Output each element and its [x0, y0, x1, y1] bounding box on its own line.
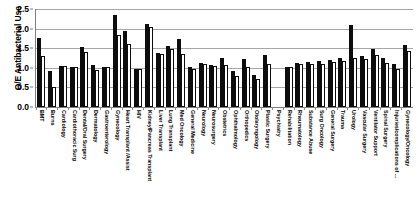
y-tick-label: 0.5: [17, 82, 29, 92]
x-label-cell: Rheumatology: [294, 110, 305, 214]
bar-group: [219, 9, 230, 107]
bar-expected: [396, 69, 400, 107]
x-tick-label: General Surgery: [329, 110, 334, 151]
x-tick-label: Gastroenterology: [103, 110, 108, 154]
bar-group: [369, 9, 380, 107]
bar-group: [380, 9, 391, 107]
x-tick-label: Substance Abuse: [307, 110, 312, 154]
y-tick-label: 2.0: [17, 24, 29, 34]
bar-group: [262, 9, 273, 107]
x-label-cell: Injuries/complications of ...: [391, 110, 402, 214]
bar-expected: [52, 87, 56, 107]
y-axis-tick-labels: 0.00.51.01.52.02.5: [0, 9, 33, 107]
x-tick-label: BMT: [39, 110, 44, 122]
bar-group: [90, 9, 101, 107]
y-tick-mark: [30, 67, 33, 68]
bar-group: [154, 9, 165, 107]
bar-group: [337, 9, 348, 107]
bar-expected: [106, 67, 110, 107]
bar-group: [122, 9, 133, 107]
x-tick-label: Rheumatology: [297, 110, 302, 147]
bar-group: [230, 9, 241, 107]
bar-group: [305, 9, 316, 107]
bar-expected: [385, 63, 389, 107]
bar-expected: [235, 76, 239, 107]
x-label-cell: Plastic Surgery: [262, 110, 273, 214]
x-label-cell: General Surgery: [326, 110, 337, 214]
x-tick-label: Obstetrics: [221, 110, 226, 136]
x-label-cell: Kidney/Pancreas Transplant: [144, 110, 155, 214]
bar-expected: [342, 61, 346, 107]
x-tick-label: Rehabilitation: [286, 110, 291, 145]
x-axis-tick-labels: BMTBurnsCardiologyCardiothoracic SurgDen…: [35, 110, 413, 214]
x-label-cell: Ophthalmology: [230, 110, 241, 214]
x-label-cell: Heart Transplant /Assist: [122, 110, 133, 214]
bar-group: [58, 9, 69, 107]
bar-expected: [213, 66, 217, 107]
x-tick-label: Surg Oncology: [318, 110, 323, 148]
x-tick-label: HIV: [135, 110, 140, 119]
x-label-cell: Gynecology/Oncology: [402, 110, 413, 214]
x-tick-label: Trauma: [340, 110, 345, 129]
bar-group: [326, 9, 337, 107]
x-label-cell: Cardiothoracic Surg: [68, 110, 79, 214]
bar-expected: [149, 27, 153, 107]
bar-expected: [321, 64, 325, 107]
x-tick-label: Kidney/Pancreas Transplant: [146, 110, 151, 181]
bar-expected: [63, 66, 67, 107]
x-tick-label: Spinal Surgery: [383, 110, 388, 147]
bar-group: [251, 9, 262, 107]
x-label-cell: Dental/Oral Surgery: [79, 110, 90, 214]
x-label-cell: Trauma: [337, 110, 348, 214]
bar-group: [47, 9, 58, 107]
bar-group: [133, 9, 144, 107]
x-label-cell: Gynecology: [111, 110, 122, 214]
bar-group: [240, 9, 251, 107]
bar-group: [165, 9, 176, 107]
bar-expected: [95, 70, 99, 107]
x-tick-label: Orthopedics: [243, 110, 248, 141]
y-tick-mark: [30, 87, 33, 88]
plot-area: [35, 9, 413, 107]
x-label-cell: Burns: [47, 110, 58, 214]
x-tick-label: Liver Transplant: [157, 110, 162, 151]
x-tick-label: Med Oncology: [178, 110, 183, 147]
bar-expected: [289, 67, 293, 107]
bar-group: [144, 9, 155, 107]
y-tick-label: 2.5: [17, 4, 29, 14]
antibacterial-use-bar-chart: O/E Antibacterial Use 0.00.51.01.52.02.5…: [0, 0, 420, 214]
x-label-cell: Substance Abuse: [305, 110, 316, 214]
bar-expected: [74, 67, 78, 107]
x-tick-label: Burns: [49, 110, 54, 125]
x-label-cell: Dermatology: [90, 110, 101, 214]
bar-group: [111, 9, 122, 107]
x-tick-label: Ophthalmology: [232, 110, 237, 149]
bar-group: [391, 9, 402, 107]
bar-expected: [192, 69, 196, 107]
bar-expected: [170, 49, 174, 107]
x-tick-label: Psychiatry: [275, 110, 280, 137]
bar-expected: [256, 79, 260, 107]
x-tick-label: Vascular Surgery: [361, 110, 366, 153]
y-tick-mark: [30, 28, 33, 29]
bar-group: [187, 9, 198, 107]
x-label-cell: Med Oncology: [176, 110, 187, 214]
bar-group: [197, 9, 208, 107]
x-label-cell: Ventilator Support: [369, 110, 380, 214]
bar-group: [273, 9, 284, 107]
x-label-cell: Spinal Surgery: [380, 110, 391, 214]
bar-expected: [117, 35, 121, 107]
x-tick-label: Cardiology: [60, 110, 65, 138]
bar-group: [176, 9, 187, 107]
bar-expected: [364, 59, 368, 107]
bar-expected: [299, 64, 303, 107]
x-tick-label: Gynecology: [114, 110, 119, 140]
bar-group: [316, 9, 327, 107]
x-tick-label: Urology: [350, 110, 355, 130]
x-tick-label: Neurology: [200, 110, 205, 136]
bar-expected: [267, 64, 271, 107]
bar-expected: [203, 64, 207, 107]
bar-group: [36, 9, 47, 107]
x-tick-label: Heart Transplant /Assist: [125, 110, 130, 171]
x-label-cell: Lung Transplant: [165, 110, 176, 214]
